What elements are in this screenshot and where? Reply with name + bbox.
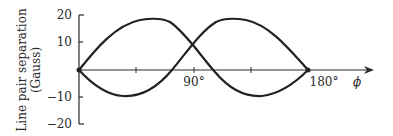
x-axis — [79, 67, 368, 73]
x-axis-title: ϕ — [353, 75, 361, 89]
y-tick-20: 20 — [57, 8, 72, 22]
x-tick-180: 180° — [310, 75, 339, 89]
y-tick-neg10: −10 — [47, 90, 72, 104]
end-point — [306, 68, 311, 73]
origin-point — [77, 68, 82, 73]
y-tick-10: 10 — [57, 35, 72, 49]
y-tick-neg20: −20 — [47, 117, 72, 131]
chart: Line pair separation (Gauss) 20 10 −10 −… — [0, 0, 393, 136]
x-tick-90: 90° — [183, 75, 204, 89]
y-axis-title: Line pair separation (Gauss) — [15, 8, 43, 132]
y-axis-title-line1: Line pair separation — [15, 8, 29, 132]
y-axis-title-line2: (Gauss) — [29, 47, 43, 93]
